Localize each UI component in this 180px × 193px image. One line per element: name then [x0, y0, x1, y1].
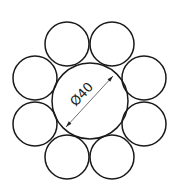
outer-circle — [45, 135, 89, 179]
outer-circle — [90, 135, 134, 179]
outer-circle — [45, 22, 89, 66]
wire-strand-diagram: Ø40 — [0, 0, 180, 193]
diameter-label: Ø40 — [67, 79, 96, 109]
outer-circle — [13, 102, 57, 146]
diameter-dimension: Ø40 — [66, 76, 113, 127]
outer-circle — [13, 56, 57, 100]
outer-circle — [122, 102, 166, 146]
outer-circles — [13, 22, 166, 179]
outer-circle — [122, 56, 166, 100]
outer-circle — [90, 22, 134, 66]
